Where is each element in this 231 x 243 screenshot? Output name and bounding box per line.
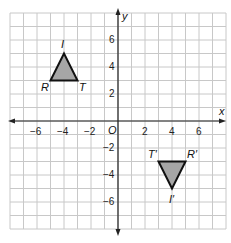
vertex-label-T: T: [79, 81, 87, 93]
x-tick-label: 6: [196, 126, 202, 137]
y-axis-down-arrow-icon: [116, 229, 121, 236]
y-tick-label: −2: [103, 142, 115, 153]
y-tick-label: 4: [109, 61, 115, 72]
x-tick-label: −6: [30, 126, 42, 137]
x-axis-label: x: [218, 105, 225, 117]
coordinate-plane: x y O −6 −4 −2 2 4 6 6 4 2 −2 −4 −6 I R …: [0, 0, 231, 243]
y-tick-label: −4: [103, 169, 115, 180]
y-tick-label: −6: [103, 196, 115, 207]
y-tick-label: 2: [109, 88, 115, 99]
vertex-label-I: I: [61, 38, 64, 50]
x-axis-left-arrow-icon: [8, 119, 15, 124]
x-tick-label: 4: [169, 126, 175, 137]
x-axis-right-arrow-icon: [219, 119, 226, 124]
y-tick-label: 6: [109, 34, 115, 45]
y-axis-up-arrow-icon: [116, 8, 121, 15]
x-tick-label: −2: [84, 126, 96, 137]
vertex-label-T-prime: T′: [148, 148, 158, 160]
x-axis: [8, 119, 226, 124]
origin-label: O: [108, 124, 117, 136]
vertex-label-I-prime: I′: [169, 193, 175, 205]
x-tick-label: −4: [57, 126, 69, 137]
y-axis-label: y: [121, 10, 129, 22]
vertex-label-R: R: [41, 81, 49, 93]
vertex-label-R-prime: R′: [187, 148, 198, 160]
x-tick-label: 2: [142, 126, 148, 137]
